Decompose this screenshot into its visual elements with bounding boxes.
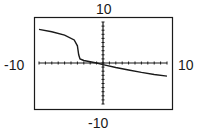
tick-marks xyxy=(39,22,167,104)
graph-window xyxy=(0,0,203,133)
ymax-label: 10 xyxy=(96,2,112,16)
xmax-label: 10 xyxy=(178,58,194,72)
ymin-label: -10 xyxy=(88,116,108,130)
xmin-label: -10 xyxy=(4,58,24,72)
